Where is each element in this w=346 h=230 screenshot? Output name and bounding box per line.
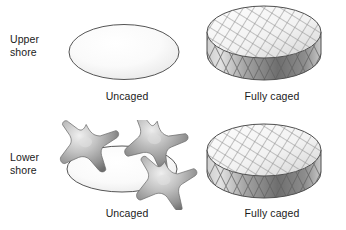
caption-upper-uncaged: Uncaged: [78, 90, 176, 103]
caption-lower-fully-caged: Fully caged: [222, 207, 322, 220]
plot-upper-shore-fully-caged: [204, 2, 332, 90]
caption-lower-uncaged: Uncaged: [78, 207, 176, 220]
caging-experiment-figure: Upper shore Lower shore Uncaged: [0, 0, 346, 230]
uncaged-plot-ellipse: [69, 25, 179, 80]
caption-upper-fully-caged: Fully caged: [222, 90, 322, 103]
plot-lower-shore-uncaged: [52, 120, 200, 210]
row-label-upper-shore: Upper shore: [10, 33, 39, 58]
plot-upper-shore-uncaged: [66, 16, 188, 88]
plot-lower-shore-fully-caged: [204, 120, 332, 208]
row-label-lower-shore: Lower shore: [10, 151, 39, 176]
